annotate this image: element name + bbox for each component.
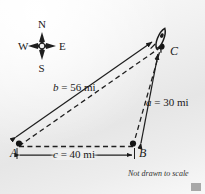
vertex-label-a: A — [10, 147, 17, 159]
dimension-label-a: a = 30 mi — [146, 97, 189, 108]
figure-caption: Not drawn to scale — [128, 170, 189, 178]
dimension-label-c: c = 40 mi — [50, 149, 98, 160]
triangle-navigation-figure: N S E W A B C b = 56 mi a = 30 mi c = 40… — [0, 0, 205, 194]
dimension-label-b: b = 56 mi — [53, 82, 96, 93]
corner-artifact-mark — [191, 183, 201, 191]
vertex-point-b — [130, 140, 136, 146]
compass-rose-icon — [28, 32, 56, 60]
compass-label-south: S — [39, 63, 45, 74]
compass-label-east: E — [59, 41, 66, 52]
compass-label-north: N — [38, 19, 46, 30]
airplane-icon — [151, 26, 170, 53]
vertex-label-c: C — [170, 45, 178, 57]
compass-label-west: W — [18, 41, 28, 52]
vertex-label-b: B — [139, 147, 146, 159]
